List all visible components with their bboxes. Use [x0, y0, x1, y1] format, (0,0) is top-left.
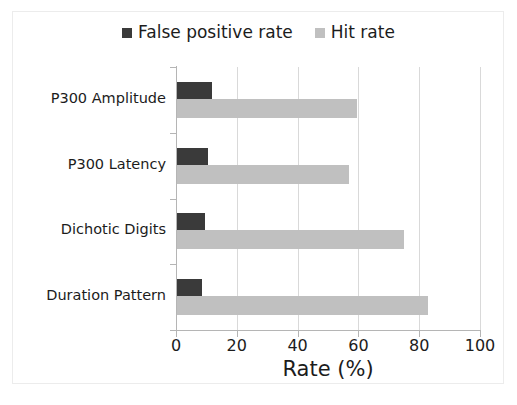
plot-area	[176, 67, 480, 330]
x-axis-line	[176, 330, 481, 331]
x-axis-tick-label: 40	[287, 336, 307, 355]
bar-hit-rate	[176, 230, 404, 249]
category-label-p300-latency: P300 Latency	[68, 156, 166, 172]
bar-hit-rate	[176, 296, 428, 315]
bar-group	[176, 148, 480, 184]
x-axis-tick-label: 0	[171, 336, 181, 355]
bar-false-positive-rate	[176, 213, 205, 230]
bar-hit-rate	[176, 165, 349, 184]
y-axis-line	[176, 66, 177, 331]
bar-false-positive-rate	[176, 148, 208, 165]
legend-entry-hit-rate: Hit rate	[315, 24, 395, 41]
bar-group	[176, 279, 480, 315]
bar-hit-rate	[176, 99, 357, 118]
x-axis-tick-label: 80	[409, 336, 429, 355]
legend-label-hit-rate: Hit rate	[331, 24, 395, 41]
x-axis-tick-label: 60	[348, 336, 368, 355]
bar-chart: False positive rate Hit rate P300 Amplit…	[0, 0, 517, 405]
bar-false-positive-rate	[176, 279, 202, 296]
x-axis-tick-label: 20	[227, 336, 247, 355]
x-axis-title: Rate (%)	[176, 357, 480, 381]
y-axis-category-labels: P300 AmplitudeP300 LatencyDichotic Digit…	[0, 0, 176, 405]
legend-swatch-hit-rate	[315, 28, 325, 38]
gridline	[480, 67, 481, 330]
category-label-duration-pattern: Duration Pattern	[46, 287, 166, 303]
bar-group	[176, 82, 480, 118]
bar-false-positive-rate	[176, 82, 212, 99]
x-axis-tick-label: 100	[465, 336, 496, 355]
bar-group	[176, 213, 480, 249]
category-label-dichotic-digits: Dichotic Digits	[61, 221, 166, 237]
category-label-p300-amplitude: P300 Amplitude	[51, 90, 166, 106]
